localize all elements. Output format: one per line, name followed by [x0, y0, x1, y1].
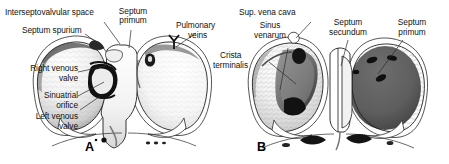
label-septum-secundum-line1: Septum [322, 18, 374, 27]
leader-sup-vena-cava [296, 22, 311, 38]
label-septum-primum-line2: primum [112, 16, 154, 25]
label-sinuatrial-orifice-line2: orifice [8, 101, 78, 110]
panel-a-pulmonary-vein-lumen [148, 56, 152, 62]
panel-a-interseptovalvular-space [105, 50, 122, 62]
label-sinus-venarum-line1: Sinus [250, 21, 290, 30]
label-crista-terminalis-line1: Crista [220, 51, 241, 60]
label-right-venous-valve-line1: Right venous [8, 64, 78, 73]
panel-b-left-atrium-cavity [349, 46, 421, 130]
label-septum-primum-b-line1: Septum [386, 18, 438, 27]
label-septum-secundum-line2: secundum [318, 28, 378, 37]
label-crista-terminalis-line2: terminalis [213, 61, 248, 70]
anatomical-figure: Interseptovalvular space Septum spurium … [0, 0, 449, 164]
panel-b-septum-primum-flap [342, 56, 352, 128]
panel-a-id: A [85, 140, 94, 154]
label-septum-spurium: Septum spurium [22, 26, 82, 35]
label-left-venous-valve-line1: Left venous [6, 112, 78, 121]
label-right-venous-valve-line2: valve [8, 74, 78, 83]
label-septum-primum-b-line2: primum [386, 28, 438, 37]
label-pulmonary-veins-line2: veins [188, 31, 207, 40]
panel-b-id: B [257, 140, 266, 154]
panel-b-pulmonary-vein-4 [353, 70, 359, 74]
label-interseptovalvular-space: Interseptovalvular space [5, 8, 94, 17]
panel-b-svc-orifice [292, 48, 306, 64]
panel-b-illustration [246, 22, 434, 150]
panel-a-ventricle-speck-1 [101, 137, 106, 142]
label-left-venous-valve-line2: valve [6, 122, 78, 131]
label-sup-vena-cava: Sup. vena cava [239, 8, 296, 17]
panel-a-ventricle-speck-2 [95, 139, 98, 142]
label-sinus-venarum-line2: venarum [246, 31, 294, 40]
label-pulmonary-veins-line1: Pulmonary [176, 21, 215, 30]
label-sinuatrial-orifice-line1: Sinuatrial [8, 91, 78, 100]
panel-a-ventricle-speck-4 [154, 142, 158, 145]
panel-b-ventricle-speck-1 [282, 143, 290, 147]
panel-b-ventricle-speck-2 [387, 141, 394, 145]
panel-a-ventricle-speck-5 [162, 142, 166, 145]
panel-a-ventricle-speck-3 [146, 142, 150, 145]
panel-b-septum-inferior [336, 132, 340, 150]
leader-septum-primum [129, 30, 131, 48]
